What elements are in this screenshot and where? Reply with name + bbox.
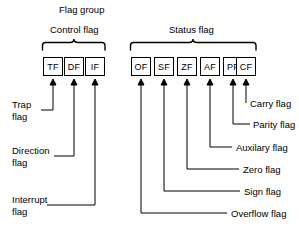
arrowhead-pf — [230, 79, 236, 85]
connector-direction — [54, 85, 74, 156]
control-flag-brace — [43, 39, 106, 50]
flag-box-of[interactable]: OF — [131, 57, 151, 76]
flag-box-cf[interactable]: CF — [236, 57, 256, 76]
status-flag-brace — [131, 39, 257, 50]
flag-group-diagram: Flag group Control flag Status flag TF D… — [0, 0, 299, 235]
arrowhead-af — [207, 79, 213, 85]
label-direction-flag-line2: flag — [12, 157, 50, 169]
flag-box-df[interactable]: DF — [64, 57, 84, 76]
diagram-title: Flag group — [59, 4, 104, 15]
arrowhead-tf — [50, 79, 56, 85]
connector-auxilary — [210, 85, 232, 147]
group-label-control-flag: Control flag — [50, 24, 99, 35]
flag-box-tf[interactable]: TF — [43, 57, 63, 76]
flag-box-zf[interactable]: ZF — [177, 57, 197, 76]
group-label-status-flag: Status flag — [169, 24, 214, 35]
flag-box-af[interactable]: AF — [200, 57, 220, 76]
connector-overflow — [141, 85, 227, 213]
connector-parity — [233, 85, 250, 124]
connector-zero — [187, 85, 239, 169]
label-carry-flag: Carry flag — [250, 98, 291, 110]
flag-box-sf[interactable]: SF — [154, 57, 174, 76]
arrowhead-of — [138, 79, 144, 85]
label-parity-flag: Parity flag — [253, 119, 295, 131]
label-trap-flag: Trap flag — [12, 99, 31, 122]
label-zero-flag: Zero flag — [243, 164, 281, 176]
label-trap-flag-line2: flag — [12, 111, 31, 123]
label-interrupt-flag: Interrupt flag — [12, 194, 47, 217]
label-auxilary-flag: Auxilary flag — [236, 142, 288, 154]
label-direction-flag: Direction flag — [12, 145, 50, 168]
connector-interrupt — [47, 85, 95, 205]
arrowhead-df — [71, 79, 77, 85]
label-trap-flag-line1: Trap — [12, 99, 31, 111]
arrowhead-if — [92, 79, 98, 85]
label-sign-flag: Sign flag — [244, 186, 281, 198]
arrowhead-zf — [184, 79, 190, 85]
arrowhead-sf — [161, 79, 167, 85]
flag-box-if[interactable]: IF — [85, 57, 105, 76]
label-direction-flag-line1: Direction — [12, 145, 50, 157]
connector-trap — [41, 85, 53, 110]
label-overflow-flag: Overflow flag — [231, 208, 286, 220]
arrowhead-cf — [243, 79, 249, 85]
connector-sign — [164, 85, 240, 191]
label-interrupt-flag-line1: Interrupt — [12, 194, 47, 206]
label-interrupt-flag-line2: flag — [12, 206, 47, 218]
